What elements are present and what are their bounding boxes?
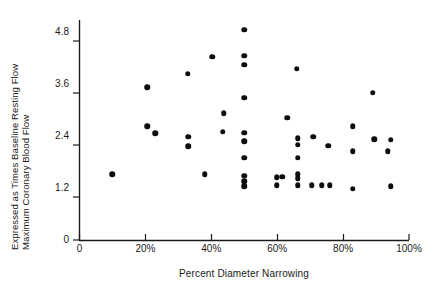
y-tick-label: 3.6 [0,79,69,89]
data-point [185,134,191,140]
data-point [388,137,394,143]
data-point [319,183,325,189]
x-tick-label: 20% [135,244,155,254]
y-tick-label: 4.8 [0,27,69,37]
data-point [242,53,248,59]
data-point [294,66,300,72]
scatter-chart-figure: Maximum Coronary Blood Flow Expressed as… [0,0,435,295]
x-axis-title: Percent Diameter Narrowing [79,268,409,279]
x-tick-label: 100% [396,244,422,254]
x-tick-label: 80% [333,244,353,254]
data-point [311,134,317,140]
data-point [350,148,356,154]
data-point [220,129,226,135]
data-point [295,155,301,161]
data-point [327,183,333,189]
data-point [326,143,332,149]
data-point [295,135,301,141]
data-point [370,90,376,96]
data-point [242,62,248,68]
data-point [274,183,280,189]
data-point [372,137,378,143]
data-point [295,183,301,189]
data-point [309,183,315,189]
data-point [284,115,290,121]
data-point [144,85,150,91]
x-tick-label: 40% [201,244,221,254]
data-point [350,186,356,192]
data-point [242,130,248,136]
data-point [279,174,285,180]
data-point [242,138,248,144]
y-tick-label: 0 [0,235,69,245]
data-point [385,148,391,154]
data-point [242,95,248,101]
data-point [295,176,301,182]
data-point [210,54,216,60]
y-tick-label: 1.2 [0,183,69,193]
data-point [242,184,248,190]
data-point [221,111,227,117]
data-point [388,184,394,190]
y-tick-label: 2.4 [0,131,69,141]
data-point [202,171,208,177]
data-point [185,71,191,77]
x-tick-label: 60% [267,244,287,254]
data-point [153,131,159,137]
data-point [350,124,356,130]
data-point [144,124,150,130]
x-tick-label: 0 [77,244,83,254]
data-point [242,155,248,161]
data-point [110,171,116,177]
data-point [185,144,191,150]
data-point [295,142,301,148]
data-point [242,27,248,33]
